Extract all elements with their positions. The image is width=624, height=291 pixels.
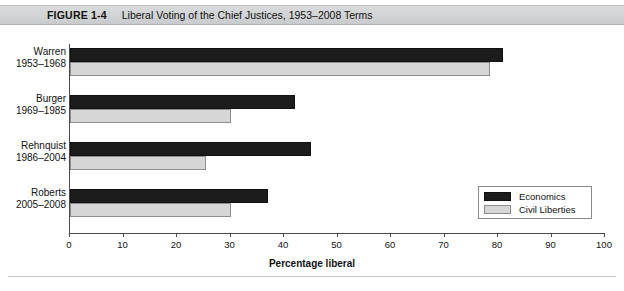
category-name: Warren [0, 46, 66, 58]
category-name: Burger [0, 93, 66, 105]
x-tick-label: 0 [66, 239, 71, 250]
x-tick-mark [230, 233, 231, 237]
x-tick-mark [283, 233, 284, 237]
category-name: Roberts [0, 187, 66, 199]
x-tick-label: 100 [596, 239, 612, 250]
chart-legend: EconomicsCivil Liberties [478, 186, 592, 219]
category-years: 2005–2008 [0, 199, 66, 211]
bar-warren-civil-liberties [70, 62, 490, 76]
x-axis-title: Percentage liberal [0, 258, 624, 269]
x-tick-label: 70 [438, 239, 449, 250]
x-tick-mark [390, 233, 391, 237]
x-tick-label: 20 [171, 239, 182, 250]
x-tick-mark [604, 233, 605, 237]
bar-roberts-economics [70, 189, 268, 203]
y-axis-label-roberts: Roberts2005–2008 [0, 187, 66, 211]
y-axis-category-labels: Warren1953–1968Burger1969–1985Rehnquist1… [0, 44, 66, 233]
legend-swatch-economics [484, 192, 511, 201]
bar-warren-economics [70, 48, 503, 62]
x-tick-mark [123, 233, 124, 237]
y-axis-label-burger: Burger1969–1985 [0, 93, 66, 117]
x-tick-label: 90 [545, 239, 556, 250]
legend-swatch-civil [484, 205, 511, 214]
legend-label: Economics [519, 191, 565, 202]
x-tick-mark [497, 233, 498, 237]
bar-rehnquist-civil-liberties [70, 156, 206, 170]
bar-burger-economics [70, 95, 295, 109]
category-years: 1986–2004 [0, 152, 66, 164]
legend-row: Civil Liberties [484, 203, 586, 216]
x-tick-label: 60 [385, 239, 396, 250]
y-axis-label-warren: Warren1953–1968 [0, 46, 66, 70]
category-years: 1953–1968 [0, 58, 66, 70]
bottom-divider-rule [8, 276, 616, 277]
bar-burger-civil-liberties [70, 109, 231, 123]
bar-rehnquist-economics [70, 142, 311, 156]
legend-row: Economics [484, 190, 586, 203]
figure-header-band: FIGURE 1-4 Liberal Voting of the Chief J… [0, 5, 624, 25]
x-tick-label: 50 [331, 239, 342, 250]
y-axis-label-rehnquist: Rehnquist1986–2004 [0, 140, 66, 164]
x-tick-mark [176, 233, 177, 237]
x-tick-label: 80 [492, 239, 503, 250]
bar-roberts-civil-liberties [70, 203, 231, 217]
x-tick-label: 30 [224, 239, 235, 250]
figure-title: Liberal Voting of the Chief Justices, 19… [122, 9, 373, 21]
figure-number: FIGURE 1-4 [47, 9, 107, 21]
x-axis-ticks: 0102030405060708090100 [69, 233, 605, 255]
category-years: 1969–1985 [0, 105, 66, 117]
x-tick-label: 10 [117, 239, 128, 250]
x-tick-label: 40 [278, 239, 289, 250]
legend-label: Civil Liberties [519, 204, 576, 215]
x-tick-mark [337, 233, 338, 237]
x-tick-mark [69, 233, 70, 237]
x-tick-mark [444, 233, 445, 237]
category-name: Rehnquist [0, 140, 66, 152]
x-tick-mark [551, 233, 552, 237]
